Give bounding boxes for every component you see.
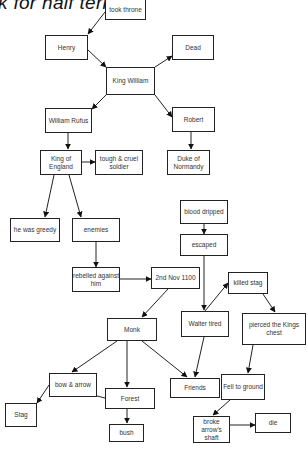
node-label: escaped <box>192 241 217 249</box>
node-he-was-greedy: he was greedy <box>10 218 60 242</box>
node-label: Walter tired <box>189 320 222 328</box>
node-duke-of-normandy: Duke of Normandy <box>167 150 210 175</box>
node-label: bow & arrow <box>55 381 91 389</box>
node-die: die <box>255 413 291 433</box>
edge-king-william-dead <box>155 56 172 67</box>
edge-king-william-robert <box>155 95 172 117</box>
edge-monk-bow-arrow <box>72 341 117 372</box>
node-william-rufus: William Rufus <box>45 108 92 133</box>
node-label: Robert <box>184 116 204 124</box>
node-enemies: enemies <box>72 218 120 242</box>
edge-fell-broke <box>213 400 230 415</box>
node-label: Monk <box>124 326 140 334</box>
node-tough-cruel-soldier: tough & cruel soldier <box>95 150 143 175</box>
node-fell-to-ground: Fell to ground <box>221 374 265 400</box>
edge-nov-1100-monk <box>142 289 168 317</box>
node-label: blood dripped <box>184 208 223 216</box>
node-killed-stag: killed stag <box>228 272 268 294</box>
edge-king-of-england-enemies <box>69 175 81 217</box>
node-label: Henry <box>58 44 75 52</box>
node-escaped: escaped <box>180 234 228 256</box>
edge-henry-king-william <box>88 50 106 67</box>
node-bow-and-arrow: bow & arrow <box>49 373 97 397</box>
node-label: King of England <box>41 155 81 171</box>
node-henry: Henry <box>45 35 88 60</box>
node-label: took throne <box>109 6 142 14</box>
node-pierced-the-kings-chest: pierced the Kings chest <box>242 313 306 345</box>
edge-king-william-william-rufus <box>92 95 106 109</box>
node-king-of-england: King of England <box>40 150 82 175</box>
edge-killed-stag-pierced <box>263 294 275 312</box>
node-label: enemies <box>84 226 109 234</box>
node-label: die <box>269 419 278 427</box>
edge-took-throne-henry <box>88 12 105 34</box>
node-label: he was greedy <box>14 226 56 234</box>
node-label: Friends <box>184 384 206 392</box>
node-label: rebelled against him <box>73 272 119 288</box>
node-label: Stag <box>14 411 27 419</box>
node-dead: Dead <box>172 35 214 60</box>
node-label: William Rufus <box>49 117 89 125</box>
node-robert: Robert <box>172 107 215 132</box>
node-label: tough & cruel soldier <box>96 155 142 171</box>
node-blood-dripped: blood dripped <box>180 200 228 224</box>
node-label: Fell to ground <box>223 383 263 391</box>
node-king-william: King William <box>106 67 155 95</box>
node-stag: Stag <box>5 403 37 427</box>
node-label: 2nd Nov 1100 <box>156 274 196 282</box>
node-label: bush <box>119 429 133 437</box>
node-took-throne: took throne <box>105 0 146 20</box>
node-label: pierced the Kings chest <box>243 321 305 337</box>
node-broke-arrows-shaft: broke arrow's shaft <box>193 416 230 443</box>
node-label: Dead <box>185 44 201 52</box>
node-label: Forest <box>121 395 139 403</box>
edge-king-of-england-greedy <box>45 175 54 217</box>
node-label: Duke of Normandy <box>168 155 209 171</box>
node-monk: Monk <box>107 318 157 341</box>
node-forest: Forest <box>105 388 155 409</box>
node-walter-tired: Walter tired <box>181 311 229 337</box>
node-label: broke arrow's shaft <box>194 418 229 442</box>
edge-bow-arrow-stag <box>37 385 49 403</box>
node-label: killed stag <box>234 279 263 287</box>
node-rebelled-against-him: rebelled against him <box>72 267 120 292</box>
node-2nd-nov-1100: 2nd Nov 1100 <box>151 267 200 289</box>
node-label: King William <box>113 77 149 85</box>
edge-pierced-fell <box>248 345 253 373</box>
edge-bow-arrow-forest <box>97 396 105 398</box>
edge-walter-killed-stag <box>205 283 228 311</box>
node-friends: Friends <box>170 378 220 398</box>
edge-walter-friends <box>195 337 204 377</box>
node-bush: bush <box>109 424 144 442</box>
edge-monk-friends <box>142 341 187 377</box>
